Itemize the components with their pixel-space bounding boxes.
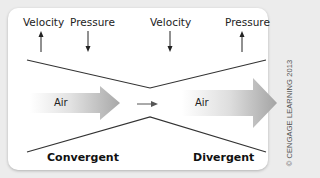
- left-air-arrow-icon: [30, 86, 120, 120]
- pressure-up-arrow-icon: [240, 31, 245, 52]
- copyright-text: © CENGAGE LEARNING 2013: [285, 60, 294, 167]
- pressure-down-arrow-icon: [86, 31, 91, 52]
- divergent-label: Divergent: [193, 151, 254, 164]
- velocity-label-left: Velocity: [23, 16, 64, 28]
- bottom-wall-line: [27, 117, 266, 152]
- pressure-label-right: Pressure: [225, 16, 270, 28]
- velocity-label-right: Velocity: [150, 16, 191, 28]
- pressure-label-left: Pressure: [70, 16, 115, 28]
- top-wall-line: [27, 60, 266, 88]
- air-label-right: Air: [195, 97, 209, 108]
- velocity-down-arrow-icon: [168, 31, 173, 52]
- center-flow-arrow-icon: [137, 101, 158, 107]
- convergent-label: Convergent: [47, 151, 119, 164]
- velocity-up-arrow-icon: [39, 31, 44, 52]
- air-label-left: Air: [54, 97, 68, 108]
